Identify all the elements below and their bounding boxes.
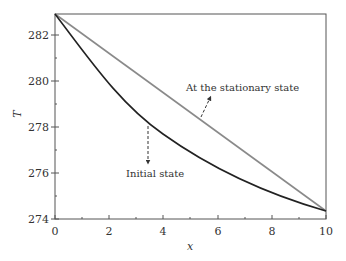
y-tick-label: 280 bbox=[28, 75, 49, 88]
y-tick-labels: 274 276 278 280 282 bbox=[28, 29, 49, 226]
x-tick-label: 10 bbox=[319, 225, 333, 238]
x-tick-label: 6 bbox=[215, 225, 222, 238]
x-axis bbox=[55, 215, 326, 219]
x-tick-label: 4 bbox=[160, 225, 167, 238]
x-tick-labels: 0 2 4 6 8 10 bbox=[52, 225, 334, 238]
chart: 0 2 4 6 8 10 x 274 276 278 280 282 T At … bbox=[0, 0, 346, 261]
y-tick-label: 274 bbox=[28, 213, 49, 226]
annotation-stationary: At the stationary state bbox=[185, 82, 299, 93]
x-tick-label: 0 bbox=[52, 225, 59, 238]
y-tick-label: 282 bbox=[28, 29, 49, 42]
series-stationary-state bbox=[55, 14, 326, 211]
y-axis-label: T bbox=[11, 109, 24, 118]
annotation-initial: Initial state bbox=[126, 168, 184, 179]
y-tick-label: 278 bbox=[28, 121, 49, 134]
y-tick-label: 276 bbox=[28, 167, 49, 180]
x-axis-label: x bbox=[187, 240, 194, 253]
plot-frame bbox=[55, 14, 326, 219]
annotation-arrow-stationary bbox=[201, 98, 210, 117]
x-tick-label: 2 bbox=[106, 225, 113, 238]
x-tick-label: 8 bbox=[269, 225, 276, 238]
